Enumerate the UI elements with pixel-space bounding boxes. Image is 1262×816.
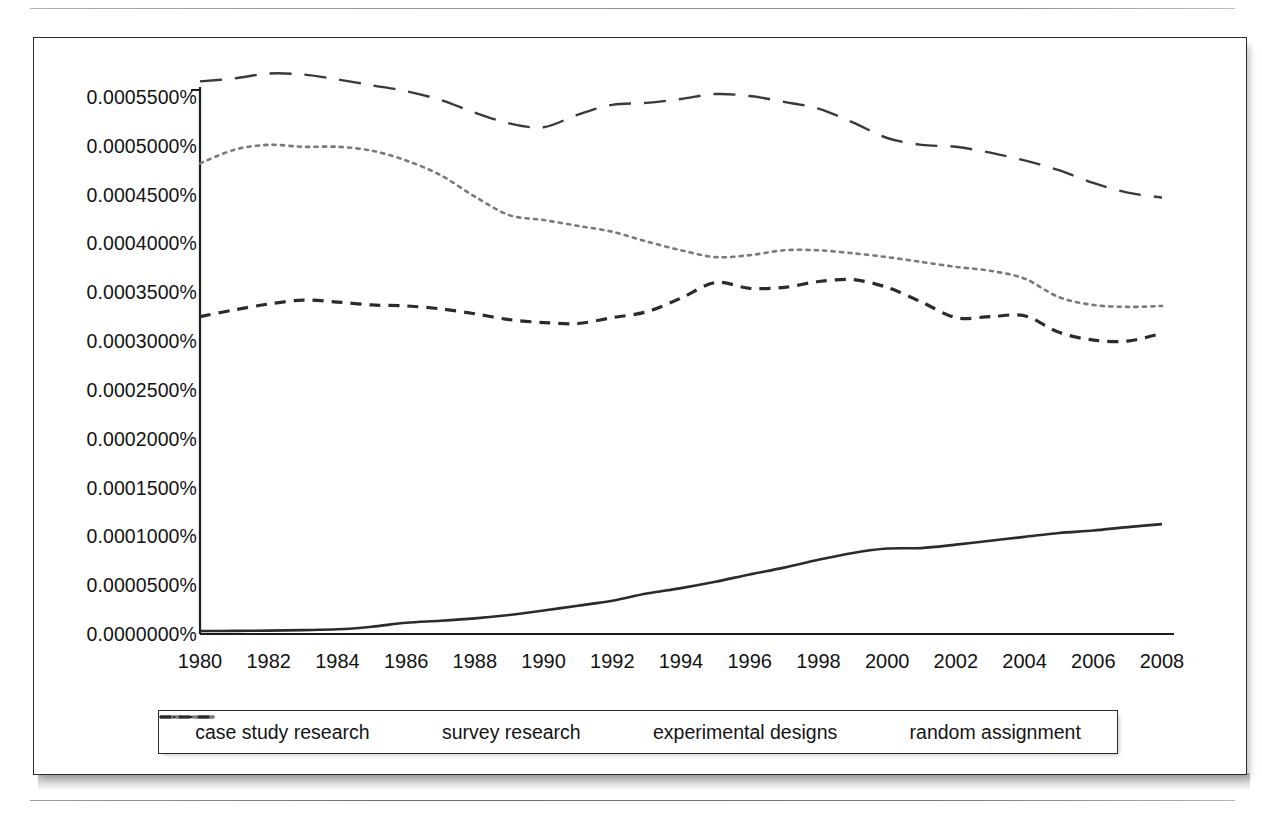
plot-area: 0.0005500%0.0005000%0.0004500%0.0004000%… [34,38,1246,774]
x-tick-label: 1980 [178,650,223,673]
legend-label: case study research [195,721,370,744]
x-tick-label: 1988 [453,650,498,673]
x-tick-label: 1990 [521,650,566,673]
series-line-case-study-research [200,524,1162,631]
series-line-random-assignment [200,279,1162,341]
x-tick-label: 1982 [246,650,291,673]
x-axis-tick-labels: 1980198219841986198819901992199419961998… [34,650,1246,690]
x-tick-label: 1998 [796,650,841,673]
series-line-experimental-designs [200,145,1162,307]
legend-label: random assignment [910,721,1081,744]
scan-shadow [38,773,1250,791]
series-line-survey-research [200,73,1162,197]
x-tick-label: 2008 [1140,650,1185,673]
page-rule-top [30,8,1235,9]
x-tick-label: 2004 [1002,650,1047,673]
legend-swatch-short-dash [159,711,215,723]
legend-item-case-study-research[interactable]: case study research [195,721,370,744]
x-tick-label: 1986 [384,650,429,673]
legend-label: survey research [442,721,581,744]
x-tick-label: 1996 [727,650,772,673]
x-tick-label: 2002 [934,650,979,673]
x-tick-label: 2006 [1071,650,1116,673]
figure-frame: 0.0005500%0.0005000%0.0004500%0.0004000%… [33,37,1247,775]
x-tick-label: 1992 [590,650,635,673]
x-tick-label: 2000 [865,650,910,673]
legend-item-survey-research[interactable]: survey research [442,721,581,744]
page-rule-bottom [30,800,1235,801]
x-tick-label: 1984 [315,650,360,673]
legend-item-experimental-designs[interactable]: experimental designs [653,721,837,744]
legend-label: experimental designs [653,721,837,744]
x-tick-label: 1994 [659,650,704,673]
legend-item-random-assignment[interactable]: random assignment [910,721,1081,744]
chart-legend: case study researchsurvey researchexperi… [158,710,1118,754]
